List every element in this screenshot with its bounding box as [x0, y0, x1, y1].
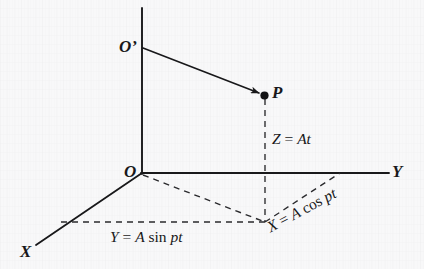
- origin-prime-label: O’: [119, 38, 137, 55]
- z-equation-equals: =: [281, 130, 298, 147]
- point-p-label: P: [272, 84, 282, 101]
- origin-label: O: [124, 163, 136, 180]
- origin-prime-to-point-ray: [143, 48, 259, 93]
- y-equation-function: sin: [145, 228, 171, 245]
- z-equation-label: Z = At: [272, 131, 311, 147]
- diagram-figure: O O’ P X Y Z = At Y = A sin pt X = A cos…: [0, 0, 424, 269]
- z-equation-variable: t: [307, 130, 311, 147]
- y-equation-lhs: Y: [110, 228, 119, 245]
- y-equation-variable: pt: [170, 228, 182, 245]
- point-p-marker: [260, 91, 268, 99]
- x-axis-label: X: [20, 243, 31, 260]
- y-equation-equals: =: [119, 228, 136, 245]
- y-axis-label: Y: [392, 163, 402, 180]
- y-equation-coefficient: A: [135, 228, 144, 245]
- z-equation-lhs: Z: [272, 130, 281, 147]
- base-diagonal-dashed-line: [143, 175, 265, 222]
- y-equation-label: Y = A sin pt: [110, 229, 183, 245]
- z-equation-coefficient: A: [297, 130, 306, 147]
- diagram-canvas: [0, 0, 424, 269]
